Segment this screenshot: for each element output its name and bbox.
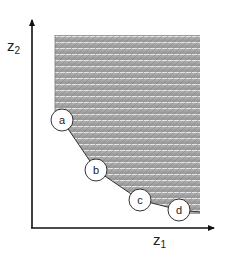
- svg-text:c: c: [137, 194, 143, 206]
- x-axis-label-main: z: [153, 231, 161, 248]
- point-a: a: [51, 109, 73, 131]
- diagram-canvas: a b c d: [0, 0, 226, 255]
- svg-text:d: d: [176, 204, 182, 216]
- svg-text:a: a: [59, 114, 66, 126]
- svg-text:b: b: [93, 164, 99, 176]
- x-axis-label: z1: [153, 232, 166, 250]
- point-b: b: [85, 159, 107, 181]
- y-axis-label-main: z: [7, 37, 15, 54]
- point-c: c: [129, 189, 151, 211]
- feasible-region: [55, 35, 200, 214]
- point-d: d: [168, 199, 190, 221]
- y-axis-label: z2: [7, 38, 20, 56]
- y-axis-label-subscript: 2: [15, 45, 21, 56]
- x-axis-label-subscript: 1: [161, 239, 167, 250]
